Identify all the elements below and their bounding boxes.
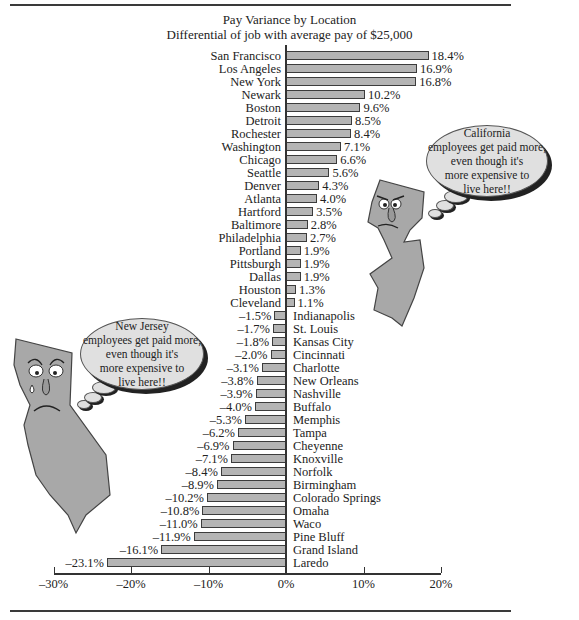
bar: [207, 493, 286, 502]
bottom-rule: [10, 610, 511, 612]
category-label: Los Angeles: [219, 63, 281, 75]
bar: [262, 363, 286, 372]
value-label: –16.1%: [120, 544, 159, 556]
bar: [286, 298, 295, 307]
bar: [286, 142, 341, 151]
category-label: Portland: [239, 245, 281, 257]
value-label: 1.9%: [304, 258, 330, 270]
bar: [161, 545, 286, 554]
bar: [286, 259, 301, 268]
bubble-text: employees get paid more,: [83, 333, 201, 347]
value-label: 2.8%: [311, 219, 337, 231]
bubble-text: more expensive to: [445, 168, 529, 182]
thought-bubble-california: California employees get paid more, even…: [426, 125, 548, 197]
value-label: –3.1%: [227, 362, 259, 374]
category-label: Pittsburgh: [230, 258, 281, 270]
bar: [286, 64, 417, 73]
bar: [273, 324, 286, 333]
bar: [286, 90, 365, 99]
value-label: 2.7%: [310, 232, 336, 244]
bar: [217, 480, 286, 489]
category-label: Buffalo: [293, 401, 331, 413]
category-label: Nashville: [293, 388, 341, 400]
value-label: –11.0%: [160, 518, 198, 530]
x-tick: [364, 567, 365, 573]
value-label: 8.5%: [355, 115, 381, 127]
value-label: 9.6%: [363, 102, 389, 114]
bar: [286, 129, 351, 138]
value-label: 4.3%: [322, 180, 348, 192]
value-label: –6.9%: [197, 440, 229, 452]
category-label: Charlotte: [293, 362, 340, 374]
category-label: Colorado Springs: [293, 492, 381, 504]
category-label: Cincinnati: [293, 349, 345, 361]
x-tick-label: –30%: [29, 577, 79, 592]
bubble-text: New Jersey: [115, 319, 168, 333]
bar: [286, 51, 429, 60]
category-label: Rochester: [231, 128, 281, 140]
category-label: Grand Island: [293, 544, 358, 556]
category-label: Tampa: [293, 427, 327, 439]
x-tick-label: 0%: [261, 577, 311, 592]
x-tick-label: –10%: [184, 577, 234, 592]
value-label: –8.9%: [182, 479, 214, 491]
category-label: New York: [230, 76, 281, 88]
bar: [245, 415, 286, 424]
bar: [286, 194, 317, 203]
bar: [233, 441, 286, 450]
value-label: –8.4%: [186, 466, 218, 478]
value-label: 7.1%: [344, 141, 370, 153]
value-label: –6.2%: [203, 427, 235, 439]
category-label: Dallas: [249, 271, 281, 283]
bar: [238, 428, 286, 437]
value-label: –23.1%: [65, 557, 104, 569]
value-label: 1.9%: [304, 245, 330, 257]
category-label: Laredo: [293, 557, 328, 569]
x-tick: [209, 567, 210, 573]
category-label: Birmingham: [293, 479, 356, 491]
category-label: Detroit: [246, 115, 281, 127]
bar: [256, 389, 286, 398]
x-tick-label: 10%: [339, 577, 389, 592]
value-label: –4.0%: [220, 401, 252, 413]
category-label: Knoxville: [293, 453, 343, 465]
category-label: Memphis: [293, 414, 340, 426]
bar: [271, 350, 287, 359]
value-label: 4.0%: [320, 193, 346, 205]
value-label: –10.2%: [165, 492, 204, 504]
value-label: 3.5%: [316, 206, 342, 218]
category-label: San Francisco: [211, 50, 281, 62]
bubble-text: even though it's: [106, 347, 178, 361]
category-label: Chicago: [239, 154, 281, 166]
category-label: St. Louis: [293, 323, 338, 335]
category-label: Baltimore: [231, 219, 281, 231]
value-label: –10.8%: [161, 505, 200, 517]
value-label: –3.8%: [221, 375, 253, 387]
value-label: –11.9%: [153, 531, 191, 543]
value-label: 1.3%: [299, 284, 325, 296]
zero-axis-line: [285, 45, 287, 573]
category-label: Atlanta: [244, 193, 281, 205]
bar: [202, 506, 286, 515]
category-label: Waco: [293, 518, 321, 530]
bar: [286, 220, 308, 229]
bar: [286, 155, 337, 164]
bar: [257, 376, 286, 385]
bar: [286, 285, 296, 294]
category-label: Newark: [241, 89, 281, 101]
category-label: Denver: [244, 180, 281, 192]
category-label: Cheyenne: [293, 440, 343, 452]
bubble-text: live here!!: [118, 375, 166, 389]
bubble-text: California: [464, 126, 511, 140]
value-label: 8.4%: [354, 128, 380, 140]
category-label: Houston: [239, 284, 281, 296]
category-label: Kansas City: [293, 336, 354, 348]
x-tick: [54, 567, 55, 573]
bubble-text: even though it's: [451, 154, 523, 168]
x-tick-label: 20%: [416, 577, 466, 592]
value-label: –1.7%: [238, 323, 270, 335]
bar: [286, 168, 329, 177]
category-label: Pine Bluff: [293, 531, 345, 543]
bar: [286, 77, 416, 86]
category-label: Norfolk: [293, 466, 333, 478]
